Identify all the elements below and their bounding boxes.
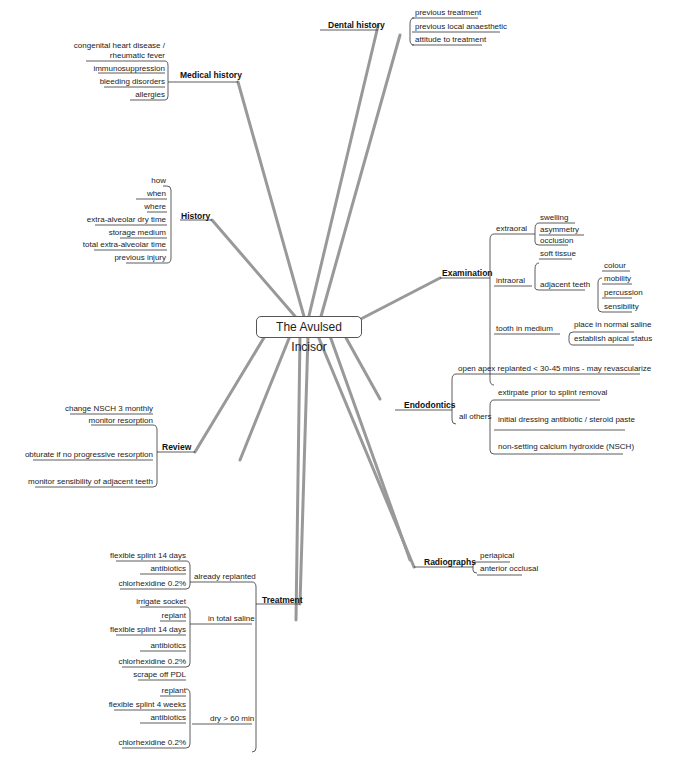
review-item: obturate if no progressive resorption [10,450,153,460]
review-item: change NSCH 3 monthly [10,404,153,414]
exam-item: percussion [604,288,643,298]
all-others-node[interactable]: all others [459,412,491,422]
exam-item: swelling [540,213,568,223]
treatment-item: replant [90,611,186,621]
treatment-item: chlorhexidine 0.2% [90,579,186,589]
history-item: when [60,189,166,199]
treatment-item: irrigate socket [90,597,186,607]
endo-item: open apex replanted < 30-45 mins - may r… [458,364,651,374]
medical-item: bleeding disorders [60,77,165,87]
history-item: extra-alveolar dry time [60,215,166,225]
exam-item: place in normal saline [574,320,651,330]
radiographs-node[interactable]: Radiographs [424,557,476,567]
medical-item: rheumatic fever [60,51,165,61]
treatment-item: scrape off PDL [90,670,186,680]
medical-item: congenital heart disease / [60,41,165,51]
history-node[interactable]: History [181,211,210,221]
treatment-item: antibiotics [90,713,186,723]
dental-item: previous local anaesthetic [415,22,507,32]
medical-item: immunosuppression [60,64,165,74]
in-total-saline-node[interactable]: in total saline [208,614,255,624]
dry-node[interactable]: dry > 60 min [210,714,254,724]
exam-item: asymmetry [540,225,579,235]
exam-item: sensibility [604,302,639,312]
treatment-item: antibiotics [90,641,186,651]
review-item: monitor sensibility of adjacent teeth [10,477,153,487]
endo-item: extirpate prior to splint removal [498,388,607,398]
endodontics-node[interactable]: Endodontics [404,400,455,410]
intraoral-node[interactable]: intraoral [496,276,525,286]
treatment-item: chlorhexidine 0.2% [90,657,186,667]
treatment-node[interactable]: Treatment [262,595,303,605]
dental-item: previous treatment [415,8,481,18]
radiograph-item: anterior occlusal [480,564,538,574]
exam-item: mobility [604,274,631,284]
history-item: where [60,202,166,212]
exam-item: occlusion [540,236,573,246]
endo-item: initial dressing antibiotic / steroid pa… [498,415,635,425]
history-item: previous injury [60,253,166,263]
history-item: storage medium [60,228,166,238]
exam-item: establish apical status [574,334,652,344]
treatment-item: replant [90,686,186,696]
exam-item: soft tissue [540,249,576,259]
treatment-item: chlorhexidine 0.2% [90,738,186,748]
treatment-item: flexible splint 14 days [90,551,186,561]
adjacent-teeth-node[interactable]: adjacent teeth [540,280,590,290]
review-node[interactable]: Review [162,442,191,452]
dental-history-node[interactable]: Dental history [328,20,385,30]
history-item: how [60,176,166,186]
medical-history-node[interactable]: Medical history [180,70,242,80]
examination-node[interactable]: Examination [442,268,493,278]
dental-item: attitude to treatment [415,35,486,45]
treatment-item: antibiotics [90,564,186,574]
tooth-in-medium-node[interactable]: tooth in medium [496,324,553,334]
treatment-item: flexible splint 4 weeks [90,700,186,710]
extraoral-node[interactable]: extraoral [496,224,527,234]
exam-item: colour [604,261,626,271]
endo-item: non-setting calcium hydroxide (NSCH) [498,442,634,452]
radiograph-item: periapical [480,551,514,561]
central-topic[interactable]: The Avulsed Incisor [256,316,362,338]
already-replanted-node[interactable]: already replanted [194,572,256,582]
history-item: total extra-alveolar time [60,240,166,250]
medical-item: allergies [60,90,165,100]
treatment-item: flexible splint 14 days [90,625,186,635]
review-item: monitor resorption [10,416,153,426]
